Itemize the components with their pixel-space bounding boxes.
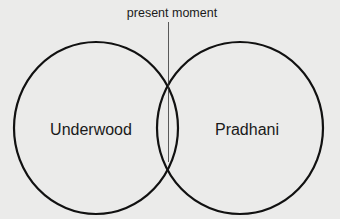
venn-diagram-graphic: present moment Underwood Pradhani — [0, 0, 340, 219]
venn-diagram: present moment Underwood Pradhani — [0, 0, 340, 219]
set-label-pradhani: Pradhani — [215, 121, 279, 138]
present-moment-label: present moment — [127, 6, 218, 20]
set-label-underwood: Underwood — [50, 121, 132, 138]
